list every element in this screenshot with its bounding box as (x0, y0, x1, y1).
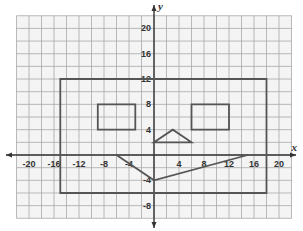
x-tick-label: -8 (100, 159, 108, 169)
y-tick-label: -8 (143, 201, 151, 211)
x-axis-arrow-left-icon (6, 153, 12, 158)
x-tick-label: -12 (72, 159, 85, 169)
x-tick-label: -16 (47, 159, 60, 169)
y-axis-arrow-down-icon (152, 222, 157, 228)
x-tick-label: -20 (22, 159, 35, 169)
y-tick-label: 4 (146, 125, 151, 135)
y-tick-label: 8 (146, 99, 151, 109)
x-tick-label: 4 (176, 159, 181, 169)
y-axis-label: y (156, 0, 163, 12)
y-tick-label: 16 (141, 49, 151, 59)
x-tick-label: 16 (249, 159, 259, 169)
y-axis-arrow-up-icon (152, 5, 157, 11)
x-tick-label: 20 (274, 159, 284, 169)
coordinate-plane: xy-20-16-12-8-44812162020161284-4-8 (0, 0, 303, 231)
y-tick-label: 20 (141, 23, 151, 33)
x-axis-label: x (291, 141, 298, 153)
x-axis-arrow-right-icon (290, 153, 296, 158)
